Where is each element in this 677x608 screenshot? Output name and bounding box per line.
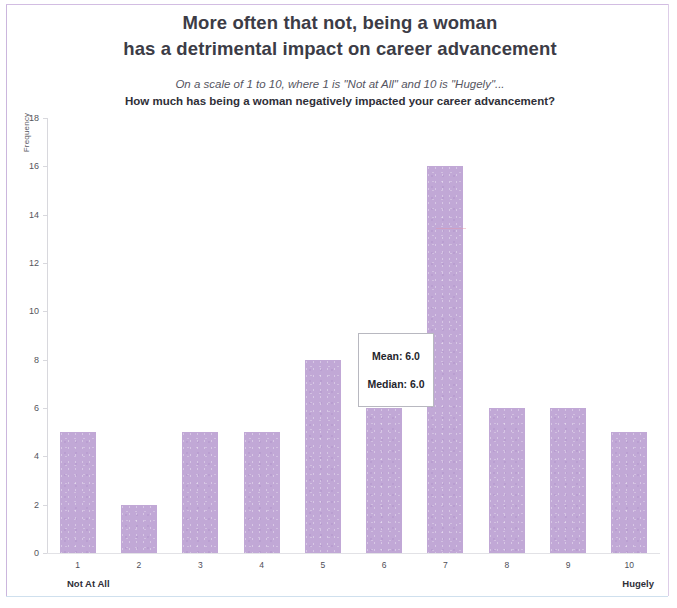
plot-area xyxy=(47,118,660,553)
x-tick-label: 9 xyxy=(566,560,571,570)
x-tick-label: 4 xyxy=(259,560,264,570)
bar xyxy=(550,408,586,553)
x-tick-label: 5 xyxy=(320,560,325,570)
y-tick-label: 10 xyxy=(5,306,39,316)
bar xyxy=(611,432,647,553)
x-tick-label: 2 xyxy=(137,560,142,570)
median-label: Median: 6.0 xyxy=(367,378,424,390)
x-tick-label: 6 xyxy=(382,560,387,570)
y-tick-label: 16 xyxy=(5,161,39,171)
y-tick-label: 14 xyxy=(5,210,39,220)
x-axis-line xyxy=(47,553,660,554)
y-tick-label: 18 xyxy=(5,113,39,123)
y-tick-label: 12 xyxy=(5,258,39,268)
bar xyxy=(182,432,218,553)
x-tick-label: 8 xyxy=(504,560,509,570)
y-tick-label: 2 xyxy=(5,500,39,510)
y-tick-label: 8 xyxy=(5,355,39,365)
bar-chart: Frequency 024681012141618 12345678910 No… xyxy=(0,0,677,608)
mean-label: Mean: 6.0 xyxy=(372,350,420,362)
scan-artifact xyxy=(436,228,466,229)
y-tick-label: 6 xyxy=(5,403,39,413)
y-tick-label: 4 xyxy=(5,451,39,461)
y-tick-mark xyxy=(43,553,47,554)
chart-page: More often that not, being a woman has a… xyxy=(0,0,677,608)
x-tick-label: 3 xyxy=(198,560,203,570)
bar xyxy=(305,360,341,553)
statistics-callout: Mean: 6.0 Median: 6.0 xyxy=(358,333,434,407)
bar xyxy=(121,505,157,553)
bar xyxy=(244,432,280,553)
x-axis-endpoint-high: Hugely xyxy=(622,578,654,589)
x-tick-label: 1 xyxy=(75,560,80,570)
bar xyxy=(60,432,96,553)
x-tick-label: 7 xyxy=(443,560,448,570)
bar xyxy=(489,408,525,553)
y-tick-label: 0 xyxy=(5,548,39,558)
x-tick-label: 10 xyxy=(625,560,634,570)
x-axis-endpoint-low: Not At All xyxy=(67,578,110,589)
bar xyxy=(366,408,402,553)
